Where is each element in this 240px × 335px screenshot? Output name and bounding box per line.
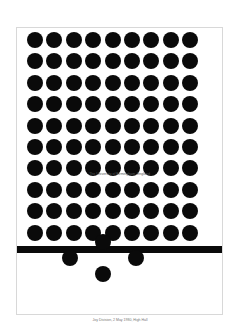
cluster-dot-bottom: [95, 266, 111, 282]
grid-dot: [124, 118, 140, 134]
grid-dot: [163, 203, 179, 219]
grid-dot: [124, 75, 140, 91]
grid-dot: [46, 225, 62, 241]
grid-dot: [143, 118, 159, 134]
grid-dot: [46, 32, 62, 48]
grid-dot: [182, 225, 198, 241]
grid-dot: [66, 32, 82, 48]
grid-dot: [124, 32, 140, 48]
grid-dot: [85, 203, 101, 219]
grid-dot: [27, 32, 43, 48]
grid-dot: [85, 53, 101, 69]
grid-dot: [182, 182, 198, 198]
grid-dot: [163, 182, 179, 198]
grid-dot: [182, 53, 198, 69]
grid-dot: [27, 75, 43, 91]
grid-dot: [27, 225, 43, 241]
grid-dot: [163, 118, 179, 134]
grid-dot: [105, 96, 121, 112]
grid-dot: [66, 139, 82, 155]
grid-dot: [46, 75, 62, 91]
grid-dot: [163, 139, 179, 155]
grid-dot: [66, 225, 82, 241]
cluster-dot-top: [95, 234, 111, 250]
grid-dot: [182, 75, 198, 91]
grid-dot: [182, 203, 198, 219]
grid-dot: [85, 139, 101, 155]
grid-dot: [143, 139, 159, 155]
grid-dot: [124, 139, 140, 155]
grid-dot: [124, 225, 140, 241]
grid-dot: [143, 182, 159, 198]
grid-dot: [66, 182, 82, 198]
caption: Joy Division, 2 May 1980, High Hall: [0, 318, 240, 322]
grid-dot: [27, 182, 43, 198]
grid-dot: [105, 53, 121, 69]
grid-dot: [163, 32, 179, 48]
grid-dot: [85, 75, 101, 91]
grid-dot: [46, 139, 62, 155]
grid-dot: [182, 118, 198, 134]
grid-dot: [46, 53, 62, 69]
grid-dot: [105, 203, 121, 219]
grid-dot: [163, 225, 179, 241]
grid-dot: [46, 96, 62, 112]
grid-dot: [182, 96, 198, 112]
grid-dot: [85, 32, 101, 48]
grid-dot: [143, 203, 159, 219]
grid-dot: [66, 53, 82, 69]
grid-dot: [85, 96, 101, 112]
grid-dot: [105, 182, 121, 198]
grid-dot: [46, 118, 62, 134]
grid-dot: [182, 32, 198, 48]
grid-dot: [163, 75, 179, 91]
poster: The University of Birmingham, England: [16, 27, 223, 315]
grid-dot: [143, 75, 159, 91]
grid-dot: [85, 118, 101, 134]
grid-dot: [27, 203, 43, 219]
grid-dot: [143, 32, 159, 48]
grid-dot: [27, 139, 43, 155]
cluster-dot-right: [128, 250, 144, 266]
grid-dot: [27, 53, 43, 69]
grid-dot: [124, 96, 140, 112]
grid-dot: [143, 96, 159, 112]
grid-dot: [66, 203, 82, 219]
cluster-dot-left: [62, 250, 78, 266]
grid-dot: [66, 118, 82, 134]
black-bar: [17, 246, 222, 253]
grid-dot: [143, 53, 159, 69]
grid-dot: [105, 139, 121, 155]
grid-dot: [163, 96, 179, 112]
grid-dot: [124, 203, 140, 219]
grid-dot: [105, 75, 121, 91]
grid-dot: [27, 118, 43, 134]
grid-dot: [182, 139, 198, 155]
grid-dot: [66, 75, 82, 91]
grid-dot: [85, 182, 101, 198]
poster-venue-text: The University of Birmingham, England: [17, 172, 222, 176]
grid-dot: [124, 53, 140, 69]
grid-dot: [27, 96, 43, 112]
grid-dot: [143, 225, 159, 241]
grid-dot: [105, 32, 121, 48]
grid-dot: [163, 53, 179, 69]
grid-dot: [46, 182, 62, 198]
grid-dot: [46, 203, 62, 219]
grid-dot: [124, 182, 140, 198]
grid-dot: [105, 118, 121, 134]
grid-dot: [66, 96, 82, 112]
